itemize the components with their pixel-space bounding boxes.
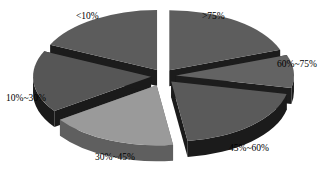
pie-label-gt75: >75% bbox=[202, 12, 225, 22]
pie-label-10-30: 10%~30% bbox=[6, 94, 46, 104]
pie-label-30-45: 30%~45% bbox=[95, 153, 135, 163]
pie-label-60-75: 60%~75% bbox=[277, 60, 317, 70]
pie-label-lt10: <10% bbox=[76, 12, 99, 22]
pie-slices-layer bbox=[33, 10, 294, 161]
pie-chart-graphic bbox=[0, 0, 334, 174]
pie-chart: <10% >75% 60%~75% 45%~60% 30%~45% 10%~30… bbox=[0, 0, 334, 174]
pie-label-45-60: 45%~60% bbox=[229, 144, 269, 154]
